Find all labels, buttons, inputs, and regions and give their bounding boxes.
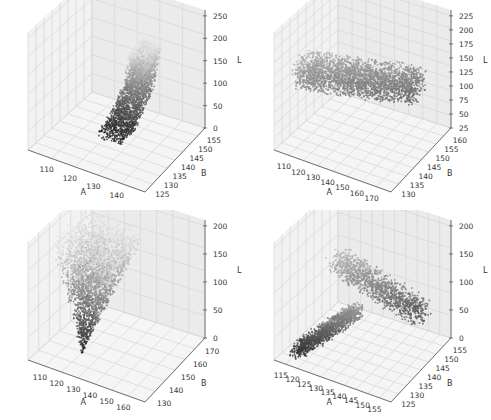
x-axis-label: A [81,188,87,197]
svg-text:100: 100 [459,82,474,91]
x-axis-label: A [81,398,87,407]
svg-text:200: 200 [459,26,474,35]
svg-text:250: 250 [213,12,228,21]
y-axis-label: B [201,379,207,388]
svg-text:135: 135 [172,172,187,181]
y-axis-label: B [201,169,207,178]
svg-text:110: 110 [277,162,292,171]
svg-text:145: 145 [436,364,451,373]
svg-text:150: 150 [459,54,474,63]
z-axis-label: L [237,56,242,65]
svg-text:120: 120 [291,168,306,177]
plot-top-left: 1101201301401251301351401451501550501001… [0,0,245,210]
axes-box [274,0,451,192]
svg-text:125: 125 [401,400,416,409]
svg-text:140: 140 [110,191,125,200]
svg-text:225: 225 [459,12,474,21]
x-axis-label: A [327,398,333,407]
svg-text:50: 50 [459,110,469,119]
svg-text:140: 140 [418,172,433,181]
svg-text:155: 155 [444,145,459,154]
svg-text:150: 150 [444,355,459,364]
z-axis-label: L [483,266,488,275]
svg-text:130: 130 [66,385,81,394]
svg-text:0: 0 [459,334,464,343]
z-axis-label: L [483,56,488,65]
svg-text:150: 150 [198,145,213,154]
svg-text:120: 120 [63,174,78,183]
svg-text:145: 145 [190,154,205,163]
svg-text:140: 140 [427,373,442,382]
svg-text:130: 130 [164,181,179,190]
svg-text:160: 160 [350,189,365,198]
svg-text:125: 125 [459,68,474,77]
svg-text:25: 25 [459,124,469,133]
svg-text:145: 145 [427,163,442,172]
svg-text:170: 170 [364,194,379,203]
svg-text:130: 130 [157,399,172,408]
scatter3d-chart: 1151201251301351401451501551251301351401… [246,210,491,420]
z-axis-label: L [237,266,242,275]
scatter3d-chart: 1101201301401501601701301351401451501551… [246,0,491,210]
plot-bottom-left: 1101201301401501601301401501601700501001… [0,210,245,420]
y-axis-label: B [447,379,453,388]
scatter3d-chart: 1101201301401251301351401451501550501001… [0,0,245,210]
plot-top-right: 1101201301401501601701301351401451501551… [246,0,491,210]
svg-text:140: 140 [181,163,196,172]
svg-text:150: 150 [459,250,474,259]
svg-text:130: 130 [401,190,416,199]
svg-text:155: 155 [453,346,468,355]
svg-text:0: 0 [213,124,218,133]
svg-text:125: 125 [155,190,170,199]
svg-text:100: 100 [213,278,228,287]
scatter3d-chart: 1101201301401501601301401501601700501001… [0,210,245,420]
y-axis-label: B [447,169,453,178]
svg-text:170: 170 [205,347,220,356]
svg-text:120: 120 [49,379,64,388]
svg-text:160: 160 [116,403,131,412]
svg-text:130: 130 [86,182,101,191]
svg-text:160: 160 [193,360,208,369]
svg-text:150: 150 [213,250,228,259]
svg-text:175: 175 [459,40,474,49]
svg-text:100: 100 [213,79,228,88]
svg-text:150: 150 [181,373,196,382]
svg-text:110: 110 [33,373,48,382]
svg-text:200: 200 [459,222,474,231]
svg-text:150: 150 [213,57,228,66]
svg-text:150: 150 [100,397,115,406]
svg-text:155: 155 [207,136,222,145]
svg-text:150: 150 [335,183,350,192]
svg-text:110: 110 [39,165,54,174]
svg-text:140: 140 [169,386,184,395]
svg-text:100: 100 [459,278,474,287]
svg-text:135: 135 [410,181,425,190]
x-axis-label: A [327,188,333,197]
svg-text:50: 50 [213,102,223,111]
svg-text:0: 0 [213,334,218,343]
svg-text:75: 75 [459,96,469,105]
svg-text:160: 160 [453,136,468,145]
svg-text:130: 130 [410,391,425,400]
svg-text:150: 150 [436,154,451,163]
svg-text:130: 130 [306,173,321,182]
svg-text:50: 50 [213,306,223,315]
plot-bottom-right: 1151201251301351401451501551251301351401… [246,210,491,420]
svg-text:50: 50 [459,306,469,315]
svg-text:155: 155 [367,405,382,414]
svg-text:200: 200 [213,34,228,43]
axes-box [28,210,205,402]
svg-text:200: 200 [213,222,228,231]
svg-text:140: 140 [321,178,336,187]
axes-box [28,0,205,192]
svg-text:135: 135 [418,382,433,391]
